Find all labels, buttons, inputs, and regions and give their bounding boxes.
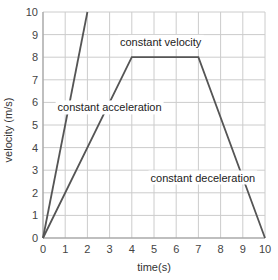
- x-axis-label: time(s): [137, 261, 171, 273]
- annotation-label: constant deceleration: [151, 172, 256, 184]
- y-tick-label: 1: [32, 209, 38, 221]
- y-tick-label: 6: [32, 96, 38, 108]
- y-tick-label: 2: [32, 187, 38, 199]
- y-tick-label: 10: [26, 6, 38, 18]
- y-tick-label: 3: [32, 164, 38, 176]
- y-tick-label: 7: [32, 74, 38, 86]
- x-tick-label: 1: [62, 243, 68, 255]
- y-tick-label: 4: [32, 142, 38, 154]
- y-tick-label: 8: [32, 51, 38, 63]
- y-axis-label: velocity (m/s): [2, 98, 14, 163]
- x-tick-label: 8: [218, 243, 224, 255]
- y-tick-label: 0: [32, 232, 38, 244]
- y-tick-label: 9: [32, 29, 38, 41]
- x-tick-label: 4: [129, 243, 135, 255]
- annotation-label: constant acceleration: [58, 101, 162, 113]
- x-tick-label: 9: [240, 243, 246, 255]
- velocity-time-chart: 012345678910012345678910time(s)velocity …: [0, 0, 278, 280]
- x-tick-label: 0: [40, 243, 46, 255]
- x-tick-label: 2: [84, 243, 90, 255]
- x-tick-label: 5: [151, 243, 157, 255]
- annotation-label: constant velocity: [120, 36, 202, 48]
- y-tick-label: 5: [32, 119, 38, 131]
- x-tick-label: 7: [195, 243, 201, 255]
- x-tick-label: 3: [107, 243, 113, 255]
- x-tick-label: 10: [259, 243, 271, 255]
- x-tick-label: 6: [173, 243, 179, 255]
